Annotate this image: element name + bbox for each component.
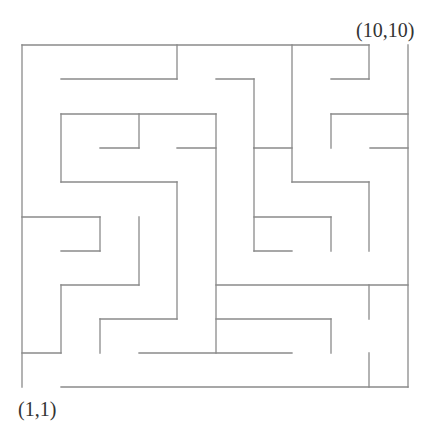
maze-diagram [0,0,439,436]
maze-walls [22,45,408,387]
start-coordinate-label: (1,1) [18,399,56,419]
end-coordinate-label: (10,10) [356,20,414,40]
